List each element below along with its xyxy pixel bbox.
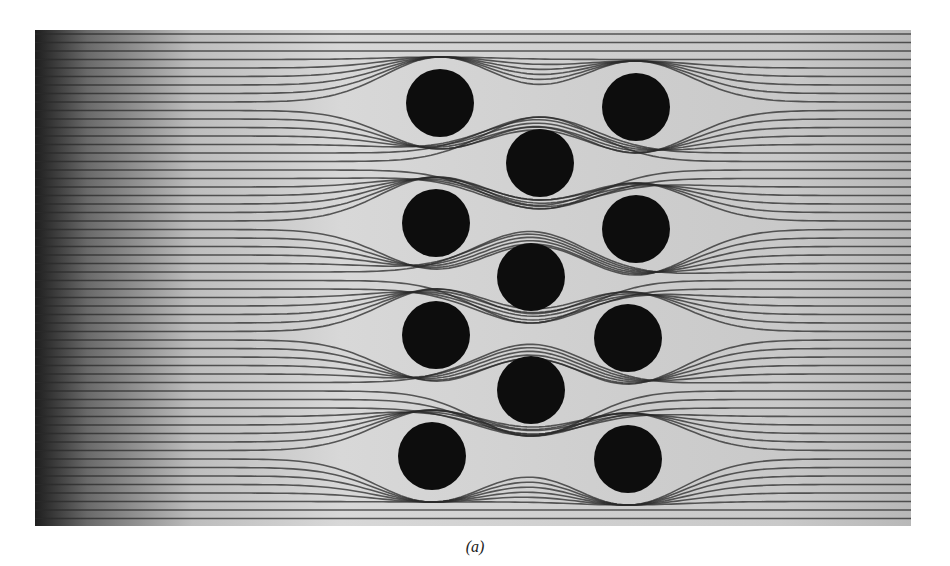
flow-visualization-photo xyxy=(35,30,911,526)
streamline xyxy=(35,348,911,381)
figure-caption: (a) xyxy=(0,538,950,556)
streamline-figure xyxy=(35,30,911,526)
cylinder xyxy=(497,243,565,311)
streamline xyxy=(35,117,911,162)
streamline xyxy=(35,502,911,506)
cylinder xyxy=(398,422,466,490)
streamline xyxy=(35,237,911,272)
streamline xyxy=(35,178,911,204)
streamline xyxy=(35,111,911,154)
streamline xyxy=(35,241,911,273)
cylinder xyxy=(594,425,662,493)
cylinder xyxy=(594,304,662,372)
streamline xyxy=(35,344,911,382)
streamline xyxy=(35,355,911,382)
cylinder xyxy=(506,129,574,197)
streamline xyxy=(35,351,911,380)
cylinder xyxy=(602,73,670,141)
cylinder xyxy=(402,189,470,257)
streamline xyxy=(35,57,911,85)
cylinder xyxy=(406,69,474,137)
cylinder xyxy=(402,301,470,369)
streamline xyxy=(35,410,911,442)
streamline xyxy=(35,391,911,436)
cylinder xyxy=(497,356,565,424)
cylinder xyxy=(602,195,670,263)
streamline xyxy=(35,412,911,434)
streamline xyxy=(35,120,911,150)
